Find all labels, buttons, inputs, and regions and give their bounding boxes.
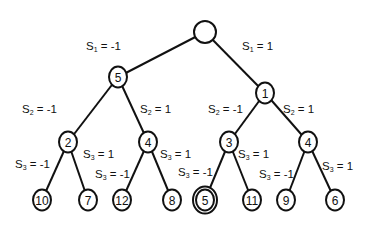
leaf-node: 7 [79, 190, 97, 211]
tree-node: 3 [220, 132, 238, 153]
node-value: 6 [332, 194, 339, 208]
decision-tree-diagram: S1 = -1S1 = 1S2 = -1S2 = 1S2 = -1S2 = 1S… [0, 0, 378, 229]
edge-label: S3 = 1 [322, 160, 353, 173]
node-circle [194, 21, 216, 43]
tree-node: 2 [59, 132, 77, 153]
edge-label: S2 = -1 [208, 103, 243, 116]
leaf-node: 8 [163, 190, 181, 211]
node-value: 10 [35, 194, 49, 208]
edge-label: S3 = 1 [83, 148, 114, 161]
tree-node: 4 [139, 132, 157, 153]
leaf-node: 9 [277, 190, 295, 211]
node-value: 9 [283, 194, 290, 208]
edge-label: S2 = -1 [22, 103, 57, 116]
node-value: 4 [305, 136, 312, 150]
edge-label: S1 = -1 [86, 40, 121, 53]
root-node [194, 21, 216, 43]
leaf-node: 12 [113, 190, 131, 211]
edge-labels-layer: S1 = -1S1 = 1S2 = -1S2 = 1S2 = -1S2 = 1S… [15, 40, 353, 181]
edge-label: S3 = 1 [160, 148, 191, 161]
node-value: 3 [226, 136, 233, 150]
node-value: 1 [262, 87, 269, 101]
node-value: 5 [202, 194, 209, 208]
node-value: 5 [115, 71, 122, 85]
edge-label: S3 = -1 [15, 158, 50, 171]
leaf-node: 6 [326, 190, 344, 211]
leaf-node: 10 [33, 190, 51, 211]
edge-label: S1 = 1 [242, 40, 273, 53]
leaf-node: 5 [193, 187, 217, 214]
node-value: 11 [246, 194, 259, 208]
edge-label: S3 = -1 [95, 168, 130, 181]
node-value: 2 [65, 136, 72, 150]
tree-node: 5 [109, 67, 127, 88]
leaf-node: 11 [243, 190, 261, 211]
edge-label: S2 = 1 [283, 103, 314, 116]
node-value: 4 [145, 136, 152, 150]
tree-node: 1 [256, 83, 274, 104]
nodes-layer: 51243410712851196 [33, 21, 344, 214]
node-value: 8 [169, 194, 176, 208]
edge-label: S3 = -1 [259, 168, 294, 181]
tree-node: 4 [299, 132, 317, 153]
edge-n5-n2 [68, 77, 118, 142]
edge-label: S3 = -1 [178, 166, 213, 179]
edge-label: S2 = 1 [140, 103, 171, 116]
edge-label: S3 = 1 [238, 148, 269, 161]
edge-root-n5 [118, 32, 205, 77]
node-value: 7 [85, 194, 92, 208]
node-value: 12 [115, 194, 129, 208]
